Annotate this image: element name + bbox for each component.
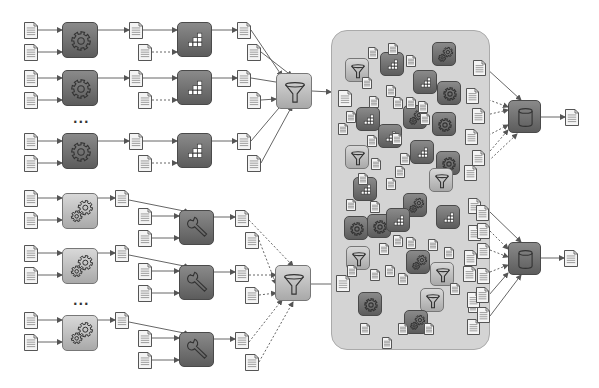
document-icon	[115, 190, 129, 211]
pool-funnel-box	[429, 168, 453, 192]
funnel-merge-box-upper	[276, 73, 312, 109]
document-icon	[115, 245, 129, 266]
document-icon	[129, 133, 143, 154]
document-icon	[24, 190, 38, 211]
document-icon	[24, 312, 38, 333]
document-icon	[565, 109, 579, 130]
gears-process-box	[62, 193, 98, 229]
gears-icon	[433, 43, 457, 67]
pool-document-icon	[393, 232, 403, 251]
gear-icon	[438, 82, 462, 106]
blocks-icon	[178, 134, 213, 169]
wrench-icon	[180, 266, 215, 301]
funnel-icon	[276, 266, 312, 302]
document-icon	[247, 92, 261, 113]
pool-document-icon	[362, 74, 372, 93]
pool-document-icon	[358, 170, 368, 189]
document-icon	[237, 22, 251, 43]
pool-document-icon	[385, 262, 395, 281]
blocks-icon	[387, 209, 411, 233]
document-icon	[247, 155, 261, 176]
pool-document-icon	[477, 307, 490, 327]
gear-icon	[63, 134, 99, 170]
blocks-process-box	[177, 133, 212, 168]
pool-document-icon	[450, 280, 460, 299]
ellipsis: ...	[73, 112, 90, 126]
pool-document-icon	[477, 243, 490, 263]
document-icon	[235, 332, 249, 353]
pool-document-icon	[464, 165, 477, 185]
funnel-icon	[277, 74, 313, 110]
document-icon	[138, 285, 152, 306]
blocks-icon	[414, 71, 438, 95]
pool-document-icon	[386, 175, 396, 194]
pool-document-icon	[466, 88, 479, 108]
document-icon	[129, 70, 143, 91]
document-icon	[138, 92, 152, 113]
pool-document-icon	[463, 266, 476, 286]
document-icon	[237, 70, 251, 91]
database-icon	[509, 243, 542, 276]
document-icon	[235, 210, 249, 231]
document-icon	[24, 334, 38, 355]
document-icon	[237, 133, 251, 154]
document-icon	[564, 250, 578, 271]
pool-document-icon	[406, 94, 416, 113]
gear-process-box	[62, 70, 98, 106]
pool-document-icon	[420, 110, 430, 129]
pool-document-icon	[477, 268, 490, 288]
wrench-icon	[180, 333, 215, 368]
blocks-icon	[178, 23, 213, 58]
wrench-process-box	[179, 332, 214, 367]
pool-blocks-box	[413, 70, 437, 94]
pool-document-icon	[398, 320, 408, 339]
document-icon	[235, 265, 249, 286]
document-icon	[247, 44, 261, 65]
gears-icon	[63, 316, 99, 352]
pool-document-icon	[473, 60, 486, 80]
document-icon	[138, 230, 152, 251]
pool-document-icon	[395, 163, 405, 182]
wrench-process-box	[179, 210, 214, 245]
gear-icon	[359, 293, 383, 317]
pool-gear-box	[437, 81, 461, 105]
pool-document-icon	[367, 132, 377, 151]
pool-document-icon	[393, 94, 403, 113]
pool-gear-box	[344, 216, 368, 240]
database-store-box-lower	[508, 242, 541, 275]
gears-process-box	[62, 248, 98, 284]
document-icon	[245, 232, 259, 253]
document-icon	[138, 330, 152, 351]
pool-blocks-box	[386, 208, 410, 232]
pool-document-icon	[476, 205, 489, 225]
document-icon	[138, 263, 152, 284]
pool-document-icon	[424, 320, 434, 339]
pool-document-icon	[370, 198, 380, 217]
pool-document-icon	[360, 320, 370, 339]
pool-document-icon	[398, 270, 408, 289]
pool-gears-box	[406, 250, 430, 274]
gears-icon	[63, 194, 99, 230]
document-icon	[138, 352, 152, 373]
ellipsis: ...	[73, 294, 90, 308]
pool-document-icon	[338, 120, 348, 139]
workflow-diagram: ......	[0, 0, 599, 388]
gear-icon	[345, 217, 369, 241]
document-icon	[245, 354, 259, 375]
pool-document-icon	[347, 262, 357, 281]
document-icon	[24, 44, 38, 65]
blocks-process-box	[177, 22, 212, 57]
document-icon	[138, 208, 152, 229]
pool-gear-box	[358, 292, 382, 316]
pool-document-icon	[371, 155, 381, 174]
pool-document-icon	[368, 44, 378, 63]
pool-document-icon	[406, 234, 416, 253]
blocks-process-box	[177, 70, 212, 105]
document-icon	[24, 245, 38, 266]
pool-gears-box	[432, 42, 456, 66]
pool-funnel-box	[420, 288, 444, 312]
document-icon	[138, 44, 152, 65]
document-icon	[24, 133, 38, 154]
document-icon	[138, 155, 152, 176]
blocks-icon	[411, 141, 435, 165]
